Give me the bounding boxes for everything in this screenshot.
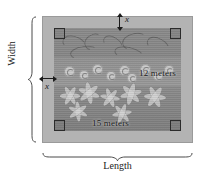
rose-flower-icon — [92, 64, 103, 75]
corner-marker-bottom-right — [170, 120, 181, 131]
corner-marker-top-right — [170, 28, 181, 39]
outer-length-label: Length — [42, 160, 193, 171]
width-brace — [27, 16, 37, 143]
inner-length-label: 15 meters — [92, 118, 129, 128]
rose-flower-icon — [106, 71, 116, 81]
rose-flower-icon — [127, 73, 137, 83]
lily-flower-icon — [144, 88, 166, 105]
lily-flower-icon — [78, 84, 100, 102]
lily-flower-icon — [120, 85, 142, 103]
garden-border-diagram: 12 meters 15 meters x x Width Length — [0, 0, 208, 179]
inner-width-label: 12 meters — [139, 68, 176, 78]
corner-marker-bottom-left — [54, 120, 65, 131]
border-width-label-left: x — [45, 81, 49, 91]
lily-flower-icon — [68, 104, 88, 119]
rose-flower-icon — [79, 70, 89, 80]
inner-rectangle-photo — [54, 28, 181, 131]
length-brace — [42, 148, 193, 158]
outer-width-label: Width — [6, 34, 17, 74]
lily-flower-icon — [100, 90, 120, 106]
rose-flower-icon — [64, 66, 75, 77]
corner-marker-top-left — [54, 28, 65, 39]
border-width-arrow-left — [42, 78, 54, 79]
border-width-arrow-top — [119, 16, 120, 28]
border-width-label-top: x — [125, 14, 129, 24]
